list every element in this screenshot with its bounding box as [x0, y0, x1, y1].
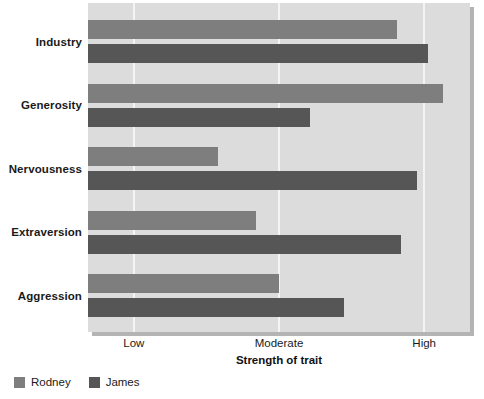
x-tick-high: High: [412, 337, 436, 349]
bar-industry-rodney: [88, 20, 397, 39]
y-axis-labels: IndustryGenerosityNervousnessExtraversio…: [0, 0, 84, 335]
bar-industry-james: [88, 44, 428, 63]
x-axis-tick-labels: LowModerateHigh: [0, 337, 484, 355]
bar-generosity-james: [88, 108, 310, 127]
legend-item-rodney[interactable]: Rodney: [14, 376, 71, 388]
bar-aggression-rodney: [88, 274, 279, 293]
category-label-nervousness: Nervousness: [9, 163, 82, 175]
x-axis-title: Strength of trait: [88, 354, 470, 366]
bar-nervousness-rodney: [88, 147, 218, 166]
x-tick-moderate: Moderate: [255, 337, 304, 349]
legend-label-james: James: [106, 376, 140, 388]
legend-swatch-icon-james: [89, 377, 100, 388]
bar-chart: IndustryGenerosityNervousnessExtraversio…: [0, 0, 484, 399]
x-tick-low: Low: [123, 337, 144, 349]
legend-label-rodney: Rodney: [31, 376, 71, 388]
bar-aggression-james: [88, 298, 344, 317]
bar-extraversion-james: [88, 235, 401, 254]
category-label-generosity: Generosity: [21, 99, 82, 111]
category-label-extraversion: Extraversion: [11, 226, 82, 238]
legend-item-james[interactable]: James: [89, 376, 140, 388]
plot-area: [88, 3, 470, 332]
chart-legend: RodneyJames: [14, 376, 140, 388]
category-label-industry: Industry: [36, 36, 82, 48]
category-label-aggression: Aggression: [18, 290, 82, 302]
bar-generosity-rodney: [88, 84, 443, 103]
legend-swatch-icon-rodney: [14, 377, 25, 388]
bar-extraversion-rodney: [88, 211, 256, 230]
bar-nervousness-james: [88, 171, 417, 190]
